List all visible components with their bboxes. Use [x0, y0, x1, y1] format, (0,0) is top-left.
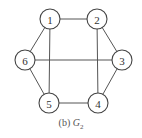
- node-5: 5: [39, 93, 59, 113]
- edge-1-5: [49, 19, 50, 103]
- node-1: 1: [40, 9, 60, 29]
- caption-subscript: 2: [80, 123, 84, 131]
- graph-nodes: 123456: [15, 9, 132, 113]
- node-label: 5: [46, 98, 52, 110]
- node-label: 3: [119, 55, 125, 67]
- node-label: 6: [22, 55, 28, 67]
- node-label: 1: [47, 14, 53, 26]
- edge-2-4: [97, 19, 98, 103]
- figure-caption: (b) G2: [0, 117, 142, 131]
- node-2: 2: [87, 9, 107, 29]
- node-3: 3: [112, 50, 132, 70]
- caption-symbol: G: [73, 117, 80, 128]
- node-label: 2: [94, 14, 100, 26]
- node-label: 4: [95, 98, 101, 110]
- node-6: 6: [15, 50, 35, 70]
- node-4: 4: [88, 93, 108, 113]
- graph-edges: [25, 19, 122, 103]
- caption-prefix: (b): [59, 117, 73, 128]
